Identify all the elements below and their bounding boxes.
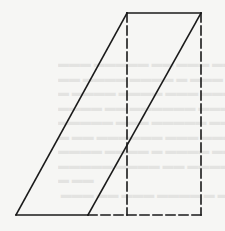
parallelogram-rectangle-diagram [0, 0, 225, 231]
left-slant-edge [16, 13, 127, 215]
right-slant-edge [88, 13, 201, 215]
